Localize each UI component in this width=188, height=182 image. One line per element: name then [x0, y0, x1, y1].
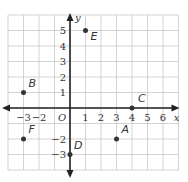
x-tick-label: 6 — [160, 112, 166, 123]
x-tick-label: 3 — [113, 112, 119, 123]
point-marker — [130, 106, 135, 111]
y-tick-label: 5 — [60, 25, 66, 36]
coordinate-plane: xy O−3−212345654321−2−3 ABCDEF — [0, 0, 188, 182]
x-tick-label: 2 — [98, 112, 104, 123]
y-tick-label: 4 — [60, 41, 66, 52]
point-marker — [21, 137, 26, 142]
point-label: E — [91, 30, 98, 43]
y-axis-label: y — [74, 12, 81, 23]
point-marker — [68, 152, 73, 157]
point-label: F — [29, 123, 36, 136]
point-label: A — [121, 123, 130, 136]
point-marker — [114, 137, 119, 142]
y-tick-label: 3 — [60, 56, 66, 67]
y-tick-label: 2 — [60, 72, 66, 83]
point-label: B — [29, 77, 37, 90]
x-tick-label: −3 — [16, 112, 31, 123]
origin-label: O — [58, 112, 66, 123]
point-marker — [83, 28, 88, 33]
x-tick-label: 1 — [82, 112, 88, 123]
y-tick-label: −2 — [51, 134, 66, 145]
point-marker — [21, 90, 26, 95]
point-label: C — [138, 92, 146, 105]
y-tick-label: 1 — [60, 87, 66, 98]
y-tick-label: −3 — [51, 149, 66, 160]
x-tick-label: 4 — [129, 112, 135, 123]
x-axis-arrow-left-icon — [2, 105, 10, 112]
x-axis-label: x — [174, 112, 180, 123]
y-axis-arrow-up-icon — [67, 13, 74, 21]
point-label: D — [74, 139, 82, 152]
y-axis-arrow-down-icon — [67, 170, 74, 178]
x-tick-label: −2 — [32, 112, 47, 123]
x-tick-label: 5 — [144, 112, 150, 123]
